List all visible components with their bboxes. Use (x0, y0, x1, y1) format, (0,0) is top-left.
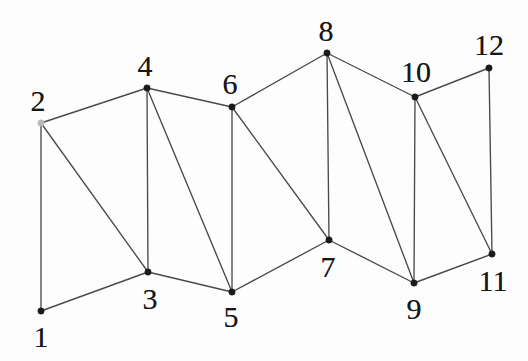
edge-layer (41, 53, 492, 311)
graph-edge-2-4 (41, 88, 147, 123)
graph-vertex-label-6: 6 (223, 69, 238, 99)
graph-edge-7-8 (327, 53, 329, 240)
graph-edge-11-12 (489, 68, 492, 254)
graph-vertex-3[interactable] (145, 269, 151, 275)
graph-vertex-label-12: 12 (474, 30, 504, 60)
graph-vertex-label-7: 7 (321, 252, 336, 282)
graph-vertex-4[interactable] (144, 85, 150, 91)
graph-vertex-label-2: 2 (31, 86, 46, 116)
graph-vertex-label-1: 1 (34, 322, 49, 352)
graph-vertex-10[interactable] (412, 94, 418, 100)
graph-vertex-label-8: 8 (319, 16, 334, 46)
graph-vertex-12[interactable] (486, 65, 492, 71)
graph-vertex-11[interactable] (489, 251, 495, 257)
graph-canvas (0, 0, 528, 361)
graph-vertex-5[interactable] (229, 289, 235, 295)
graph-figure: 123456789101112 (0, 0, 528, 361)
graph-edge-7-9 (329, 240, 414, 283)
graph-edge-6-8 (232, 53, 327, 107)
graph-vertex-label-10: 10 (401, 57, 431, 87)
vertex-layer (38, 50, 495, 314)
graph-vertex-label-9: 9 (407, 294, 422, 324)
graph-edge-5-7 (232, 240, 329, 292)
graph-edge-3-5 (148, 272, 232, 292)
graph-vertex-6[interactable] (229, 104, 235, 110)
graph-edge-4-5 (147, 88, 232, 292)
graph-vertex-2[interactable] (38, 120, 44, 126)
graph-edge-1-3 (41, 272, 148, 311)
graph-edge-6-7 (232, 107, 329, 240)
graph-vertex-label-4: 4 (138, 51, 153, 81)
graph-edge-3-4 (147, 88, 148, 272)
graph-vertex-8[interactable] (324, 50, 330, 56)
graph-vertex-9[interactable] (411, 280, 417, 286)
graph-vertex-7[interactable] (326, 237, 332, 243)
graph-edge-9-10 (414, 97, 415, 283)
graph-vertex-label-5: 5 (224, 302, 239, 332)
graph-vertex-1[interactable] (38, 308, 44, 314)
graph-vertex-label-11: 11 (479, 266, 508, 296)
graph-edge-4-6 (147, 88, 232, 107)
graph-edge-10-11 (415, 97, 492, 254)
graph-vertex-label-3: 3 (143, 284, 158, 314)
graph-edge-2-3 (41, 123, 148, 272)
